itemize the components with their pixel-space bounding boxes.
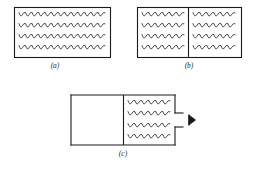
wave-trace-full-3 — [19, 34, 105, 38]
wave-trace-right-4 — [128, 134, 170, 138]
wave-trace-right-2 — [128, 111, 170, 115]
wave-trace-left-2 — [142, 23, 184, 27]
panel-label-b: (b) — [178, 62, 200, 70]
wave-trace-right-1 — [128, 100, 170, 104]
panel-label-c: (c) — [112, 150, 134, 158]
container-outline — [138, 8, 242, 58]
flow-arrow-head-icon — [189, 115, 196, 125]
panel-label-a: (a) — [44, 62, 66, 70]
figure-diagram — [0, 0, 255, 169]
wave-trace-left-1 — [142, 12, 184, 16]
wave-trace-left-3 — [142, 34, 184, 38]
panel-c — [71, 95, 196, 145]
wave-trace-right-2 — [193, 23, 235, 27]
wave-trace-full-2 — [19, 23, 105, 27]
wave-trace-right-1 — [193, 12, 235, 16]
panel-a — [15, 8, 111, 58]
wave-trace-right-4 — [193, 45, 235, 49]
wave-trace-right-3 — [193, 34, 235, 38]
wave-trace-left-4 — [142, 45, 184, 49]
wave-trace-right-3 — [128, 123, 170, 127]
wave-trace-full-1 — [19, 12, 105, 16]
wave-trace-full-4 — [19, 45, 105, 49]
panel-b — [138, 7, 242, 58]
figure-root: (a) (b) (c) — [0, 0, 255, 169]
